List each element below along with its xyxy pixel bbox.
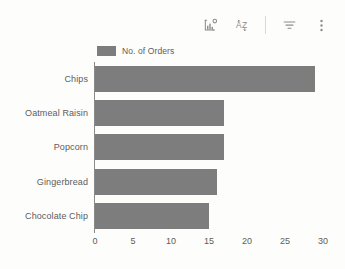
y-axis-label: Popcorn xyxy=(0,130,88,164)
x-axis-tick-labels: 051015202530 xyxy=(95,236,323,250)
bar[interactable] xyxy=(95,66,315,92)
bar-row xyxy=(95,96,323,130)
x-axis-tick-label: 5 xyxy=(130,236,135,246)
x-axis-tick-label: 15 xyxy=(204,236,214,246)
x-axis-tick-label: 30 xyxy=(318,236,328,246)
plot-area xyxy=(95,62,323,233)
x-axis-tick-label: 20 xyxy=(242,236,252,246)
bar[interactable] xyxy=(95,169,217,195)
bar-row xyxy=(95,130,323,164)
bar[interactable] xyxy=(95,203,209,229)
bar-row xyxy=(95,199,323,233)
bar[interactable] xyxy=(95,100,224,126)
x-axis-tick-label: 10 xyxy=(166,236,176,246)
y-axis-label: Chocolate Chip xyxy=(0,199,88,233)
y-axis-category-labels: ChipsOatmeal RaisinPopcornGingerbreadCho… xyxy=(0,62,88,233)
bar[interactable] xyxy=(95,134,224,160)
x-axis-tick-label: 0 xyxy=(92,236,97,246)
bar-chart: ChipsOatmeal RaisinPopcornGingerbreadCho… xyxy=(0,0,345,269)
bar-row xyxy=(95,165,323,199)
bar-row xyxy=(95,62,323,96)
y-axis-label: Oatmeal Raisin xyxy=(0,96,88,130)
y-axis-label: Chips xyxy=(0,62,88,96)
x-axis-tick-label: 25 xyxy=(280,236,290,246)
y-axis-label: Gingerbread xyxy=(0,165,88,199)
